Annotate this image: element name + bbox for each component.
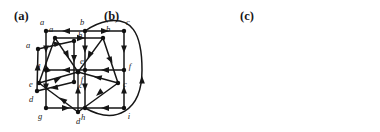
arrowhead-c-e-to-d — [62, 67, 70, 73]
vertex-label-c-e: e — [80, 56, 84, 66]
arrowhead-c-i-to-f — [121, 86, 127, 94]
vertex-c-c-node — [122, 29, 126, 33]
vertex-label-c-f: f — [129, 61, 133, 71]
panel-c: (c) — [232, 0, 380, 132]
vertex-c-i-node — [122, 106, 126, 110]
vertex-label-c-h: h — [81, 112, 85, 122]
arrowhead-c-d-to-g — [43, 84, 49, 92]
vertex-c-b-node — [83, 29, 87, 33]
arrowhead-c-b-to-e — [82, 46, 88, 54]
edge-c-h-to-c-curved — [85, 21, 142, 116]
arrowhead-c-a-to-d — [43, 46, 49, 54]
vertex-label-c-d: d — [36, 62, 41, 72]
vertex-c-a-node — [44, 29, 48, 33]
vertex-c-f-node — [122, 68, 126, 72]
arrowhead-c-h-to-c-curved — [139, 76, 145, 84]
vertex-c-h-node — [83, 106, 87, 110]
vertex-c-d-node — [44, 68, 48, 72]
vertex-label-c-i: i — [128, 111, 131, 121]
arrowhead-c-f-to-e — [101, 67, 109, 73]
arrowhead-c-b-to-c — [101, 28, 109, 34]
arrowhead-c-c-to-f — [121, 46, 127, 54]
vertex-label-c-c: c — [126, 17, 130, 27]
arrowhead-c-i-to-h — [101, 105, 109, 111]
vertex-label-c-g: g — [38, 111, 42, 121]
vertex-c-g-node — [44, 106, 48, 110]
vertex-label-c-b: b — [80, 17, 84, 27]
figure-root: (a) — [0, 0, 380, 132]
vertex-c-e-node — [83, 68, 87, 72]
panel-c-graph: a b c d e f g h i — [0, 0, 148, 132]
vertex-label-c-a: a — [40, 17, 44, 27]
arrowhead-c-e-to-h — [82, 84, 88, 92]
arrowhead-c-g-to-h — [62, 105, 70, 111]
panel-c-label: (c) — [240, 10, 254, 23]
arrowhead-c-b-to-a — [62, 28, 70, 34]
